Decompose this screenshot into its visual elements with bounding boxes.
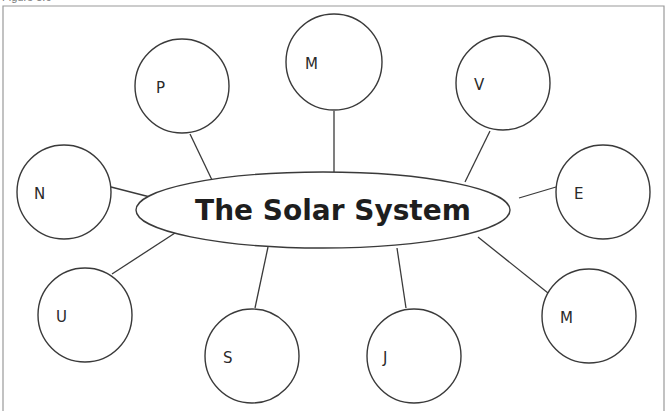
planet-letter: E xyxy=(574,185,583,203)
planet-node: P xyxy=(135,39,229,133)
planet-letter: N xyxy=(34,185,45,203)
planet-letter: M xyxy=(560,309,573,327)
planet-node: N xyxy=(17,145,111,239)
planet-letter: U xyxy=(56,308,67,326)
planet-node: S xyxy=(205,309,299,403)
planet-letter: P xyxy=(156,79,165,97)
planet-circle xyxy=(17,145,111,239)
planet-circle xyxy=(205,309,299,403)
planet-node: E xyxy=(556,145,650,239)
center-title: The Solar System xyxy=(195,194,471,227)
planet-circle xyxy=(135,39,229,133)
planet-circle xyxy=(456,36,550,130)
solar-system-diagram: PMVEMJSUN The Solar System xyxy=(0,0,668,411)
center-node: The Solar System xyxy=(136,172,510,248)
planet-circle xyxy=(367,309,461,403)
connector-line xyxy=(255,247,268,308)
connector-line xyxy=(478,237,548,293)
planet-node: J xyxy=(367,309,461,403)
planet-circle xyxy=(542,269,636,363)
planet-circle xyxy=(556,145,650,239)
planet-letter: S xyxy=(223,349,233,367)
planet-letter: J xyxy=(382,349,387,367)
connector-line xyxy=(112,233,175,274)
planet-letter: V xyxy=(474,76,485,94)
planet-circle xyxy=(286,14,382,110)
planet-node: V xyxy=(456,36,550,130)
connector-line xyxy=(190,134,212,180)
connector-line xyxy=(465,131,490,182)
connector-line xyxy=(397,248,406,308)
planet-node: U xyxy=(38,268,132,362)
planet-node: M xyxy=(286,14,382,110)
planet-letter: M xyxy=(305,55,318,73)
connector-line xyxy=(111,187,150,197)
planet-node: M xyxy=(542,269,636,363)
connector-line xyxy=(519,187,556,198)
planet-circle xyxy=(38,268,132,362)
